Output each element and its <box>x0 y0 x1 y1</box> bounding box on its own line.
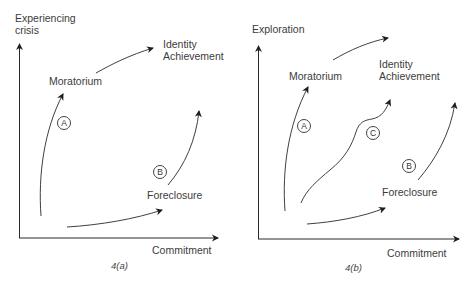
identity-label-line2: Achievement <box>163 50 224 62</box>
path-marker-a: A <box>57 116 71 130</box>
foreclosure-label: Foreclosure <box>382 186 437 198</box>
path-b-arrow <box>418 103 455 180</box>
x-axis-label: Commitment <box>387 247 447 259</box>
moratorium-label: Moratorium <box>289 70 342 82</box>
diagram-canvas <box>0 0 473 287</box>
bottom-arrow <box>307 208 385 224</box>
path-marker-b: B <box>153 165 167 179</box>
path-marker-b: B <box>402 159 416 173</box>
y-axis-label: Exploration <box>252 23 305 35</box>
moratorium-to-identity-arrow <box>96 48 153 73</box>
path-marker-a: A <box>297 119 311 133</box>
identity-label-line1: Identity <box>163 38 224 50</box>
path-a-arrow <box>284 87 308 211</box>
panel-4a <box>19 44 218 238</box>
panel-caption: 4(b) <box>345 262 362 273</box>
path-c-arrow <box>301 100 390 203</box>
bottom-arrow <box>67 210 162 227</box>
path-a-arrow <box>40 94 63 216</box>
identity-label-line1: Identity <box>379 58 440 70</box>
moratorium-label: Moratorium <box>49 75 102 87</box>
panel-caption: 4(a) <box>111 260 128 271</box>
y-axis-label-line1: Experiencing <box>15 12 76 24</box>
moratorium-to-beyond-arrow <box>333 38 388 60</box>
identity-label-line2: Achievement <box>379 70 440 82</box>
y-axis-label-line2: crisis <box>15 24 76 36</box>
foreclosure-label: Foreclosure <box>147 189 202 201</box>
path-marker-c: C <box>366 126 380 140</box>
path-b-arrow <box>168 111 199 185</box>
x-axis-label: Commitment <box>152 244 212 256</box>
identity-achievement-label: Identity Achievement <box>163 38 224 62</box>
identity-achievement-label: Identity Achievement <box>379 58 440 82</box>
y-axis-label: Experiencing crisis <box>15 12 76 36</box>
